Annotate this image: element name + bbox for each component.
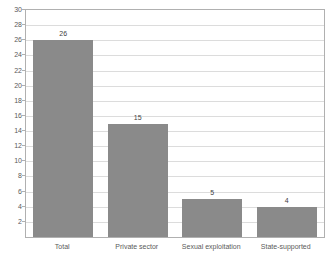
y-axis-tick-label: 24: [0, 51, 22, 58]
bar-value-label: 4: [257, 197, 317, 204]
bar[interactable]: 4: [257, 207, 317, 237]
y-axis-tick-label: 16: [0, 111, 22, 118]
y-axis-tick-label: 2: [0, 217, 22, 224]
x-axis-tick-label: Sexual exploitation: [174, 243, 249, 251]
bar-chart: 24681012141618202224262830 261554 TotalP…: [0, 0, 335, 269]
bar-value-label: 15: [108, 114, 168, 121]
y-axis-tick-label: 8: [0, 172, 22, 179]
y-axis-tick-label: 30: [0, 6, 22, 13]
y-axis-tick-label: 20: [0, 81, 22, 88]
gridline: [26, 25, 324, 26]
y-axis-tick-label: 4: [0, 202, 22, 209]
plot-area: 261554: [25, 9, 325, 238]
y-axis-tick-label: 18: [0, 96, 22, 103]
x-axis-tick-label: Private sector: [100, 243, 175, 251]
y-axis-tick-label: 28: [0, 21, 22, 28]
chart-title: [0, 0, 335, 2]
y-axis-tick-label: 22: [0, 66, 22, 73]
y-axis-tick-label: 12: [0, 142, 22, 149]
bar[interactable]: 5: [182, 199, 242, 237]
y-axis-tick-label: 10: [0, 157, 22, 164]
y-axis-tick-label: 26: [0, 36, 22, 43]
y-axis-tick-label: 14: [0, 127, 22, 134]
bar-value-label: 5: [182, 189, 242, 196]
bar[interactable]: 26: [33, 40, 93, 237]
bar[interactable]: 15: [108, 124, 168, 238]
y-axis: 24681012141618202224262830: [0, 9, 22, 238]
x-axis-tick-label: State-supported: [249, 243, 324, 251]
bar-value-label: 26: [33, 30, 93, 37]
x-axis-tick-label: Total: [25, 243, 100, 251]
x-axis: TotalPrivate sectorSexual exploitationSt…: [25, 243, 325, 257]
y-axis-tick-label: 6: [0, 187, 22, 194]
